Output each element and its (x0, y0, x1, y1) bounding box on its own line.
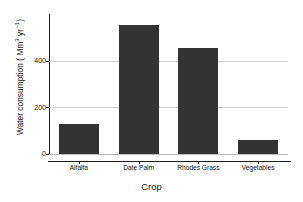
y-tick-label: 200 (24, 104, 46, 111)
gridline (49, 61, 288, 62)
x-tick-label: Vegetables (218, 164, 298, 172)
y-tick-mark (46, 107, 49, 108)
y-tick-mark (46, 61, 49, 62)
gridline (49, 107, 288, 108)
bar (59, 124, 99, 154)
y-tick-mark (46, 154, 49, 155)
x-axis-spine (48, 161, 291, 162)
y-tick-label: 400 (24, 57, 46, 64)
x-axis-title: Crop (0, 181, 303, 193)
bar (119, 25, 159, 153)
y-tick-label: 0 (24, 150, 46, 157)
bar (238, 140, 278, 154)
bar-chart-figure: Water consumption ( Mm3 yr−1) 0200400 Al… (0, 0, 303, 202)
plot-area (49, 14, 288, 154)
bar (178, 48, 218, 153)
zero-baseline (49, 154, 288, 155)
